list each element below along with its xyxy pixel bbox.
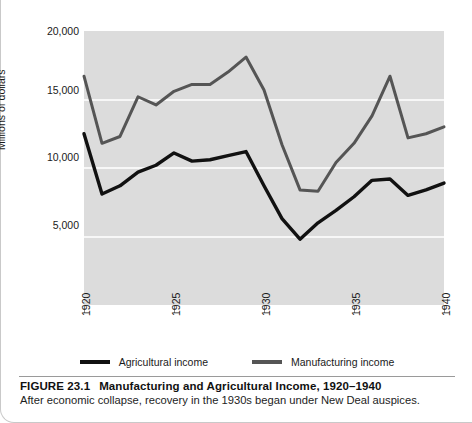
ytick-5000: 5,000: [1, 219, 79, 231]
caption-divider: [19, 376, 455, 377]
caption-title-line: FIGURE 23.1Manufacturing and Agricultura…: [20, 380, 460, 392]
figure-title: Manufacturing and Agricultural Income, 1…: [99, 380, 381, 392]
ytick-10000: 10,000: [1, 151, 79, 163]
chart-legend: Agricultural income Manufacturing income: [1, 352, 472, 372]
ytick-label: 20,000: [47, 25, 79, 37]
legend-swatch-manufacturing: [252, 360, 282, 364]
xtick-label-1935: 1935: [350, 293, 362, 316]
ytick-20000: 20,000: [1, 25, 79, 37]
legend-label-manufacturing: Manufacturing income: [291, 356, 394, 368]
ytick-label: 10,000: [47, 151, 79, 163]
figure-description: After economic collapse, recovery in the…: [20, 394, 460, 406]
figure-number: FIGURE 23.1: [20, 380, 90, 392]
figure-container: 20,000 15,000 10,000 5,000 Millions of d…: [0, 0, 472, 423]
ytick-label: 15,000: [47, 84, 79, 96]
xtick-label-1930: 1930: [260, 293, 272, 316]
legend-swatch-agricultural: [80, 360, 110, 364]
y-axis-title: Millions of dollars: [0, 69, 7, 150]
legend-item-manufacturing: Manufacturing income: [252, 356, 394, 368]
ytick-label: 5,000: [53, 219, 79, 231]
figure-caption: FIGURE 23.1Manufacturing and Agricultura…: [20, 380, 460, 406]
legend-label-agricultural: Agricultural income: [119, 356, 208, 368]
xtick-label-1920: 1920: [80, 293, 92, 316]
chart-lines: [84, 31, 444, 305]
legend-item-agricultural: Agricultural income: [80, 356, 208, 368]
ytick-15000: 15,000: [1, 84, 79, 96]
chart-area: 20,000 15,000 10,000 5,000 Millions of d…: [1, 0, 472, 345]
agricultural-income-line: [84, 134, 444, 239]
xtick-label-1940: 1940: [440, 293, 452, 316]
xtick-label-1925: 1925: [170, 293, 182, 316]
